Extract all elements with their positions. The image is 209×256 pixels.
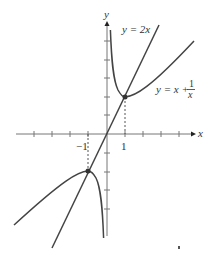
tick-label-pos1: 1 — [121, 140, 127, 152]
curve-label-frac-den: x — [187, 89, 193, 100]
chart-plot: y x y = 2x y = x + 1 x −1 1 — [0, 0, 209, 256]
curve-y-x-plus-1-over-x-negative — [14, 171, 104, 238]
curve-label-frac-num: 1 — [189, 78, 194, 89]
y-axis-arrow-icon — [105, 21, 110, 26]
line-label: y = 2x — [121, 23, 150, 35]
tick-label-neg1: −1 — [76, 140, 88, 152]
curve-label: y = x + — [155, 83, 189, 95]
stray-mark — [178, 246, 180, 249]
x-axis-label: x — [197, 127, 203, 139]
point-1-2 — [123, 95, 128, 100]
x-axis-arrow-icon — [191, 132, 196, 137]
point-neg1-neg2 — [86, 169, 91, 174]
y-axis-label: y — [103, 8, 109, 20]
